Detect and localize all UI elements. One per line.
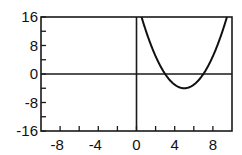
x-tick-label: 4 bbox=[171, 136, 179, 153]
chart: -8-4048 1680-8-16 bbox=[0, 0, 242, 155]
x-tick-labels: -8-4048 bbox=[50, 136, 217, 153]
x-tick-label: 8 bbox=[209, 136, 217, 153]
y-tick-label: -8 bbox=[25, 94, 38, 111]
x-tick-label: 0 bbox=[132, 136, 140, 153]
y-tick-labels: 1680-8-16 bbox=[16, 8, 38, 139]
y-tick-label: -16 bbox=[16, 122, 38, 139]
y-tick-label: 8 bbox=[30, 37, 38, 54]
x-tick-label: -4 bbox=[89, 136, 102, 153]
y-tick-label: 16 bbox=[21, 8, 38, 25]
x-tick-label: -8 bbox=[50, 136, 63, 153]
y-tick-label: 0 bbox=[30, 65, 38, 82]
parabola-curve bbox=[142, 17, 227, 88]
series-line bbox=[142, 17, 227, 88]
